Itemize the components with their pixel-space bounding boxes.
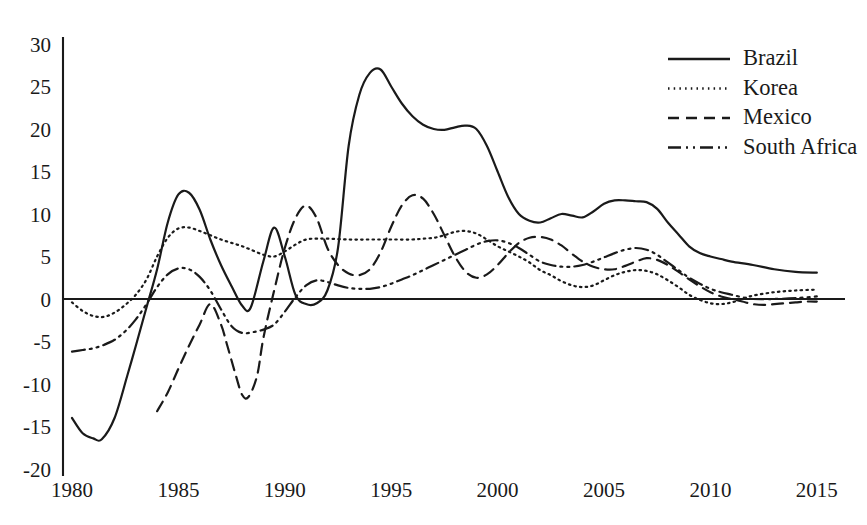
x-axis-tick-label: 1985 bbox=[157, 478, 199, 502]
legend-label-mexico: Mexico bbox=[743, 104, 812, 129]
y-axis-tick-label: 15 bbox=[30, 160, 51, 184]
x-axis-ticks: 19801985199019952000200520102015 bbox=[51, 478, 838, 502]
x-axis-tick-label: 2000 bbox=[477, 478, 519, 502]
y-axis-tick-label: 0 bbox=[41, 288, 52, 312]
legend-label-south-africa: South Africa bbox=[743, 134, 857, 159]
legend-label-korea: Korea bbox=[743, 75, 798, 100]
y-axis-tick-label: 20 bbox=[30, 118, 51, 142]
y-axis-ticks: 302520151050-5-10-15-20 bbox=[23, 33, 51, 482]
series-line-south-africa bbox=[72, 240, 817, 351]
x-axis-tick-label: 1980 bbox=[51, 478, 93, 502]
data-series-group bbox=[72, 68, 817, 440]
y-axis-tick-label: 25 bbox=[30, 75, 51, 99]
x-axis-tick-label: 2010 bbox=[689, 478, 731, 502]
y-axis-tick-label: 10 bbox=[30, 203, 51, 227]
series-line-korea bbox=[72, 227, 817, 317]
chart-legend: BrazilKoreaMexicoSouth Africa bbox=[668, 45, 857, 159]
x-axis-tick-label: 1995 bbox=[370, 478, 412, 502]
y-axis: 302520151050-5-10-15-20 bbox=[23, 33, 63, 482]
chart-container: 302520151050-5-10-15-20 1980198519901995… bbox=[0, 0, 867, 525]
y-axis-tick-label: -10 bbox=[23, 373, 51, 397]
series-line-brazil bbox=[72, 68, 817, 440]
x-axis-tick-label: 1990 bbox=[264, 478, 306, 502]
line-chart: 302520151050-5-10-15-20 1980198519901995… bbox=[0, 0, 867, 525]
y-axis-tick-label: -15 bbox=[23, 415, 51, 439]
x-axis-tick-label: 2005 bbox=[583, 478, 625, 502]
y-axis-tick-label: -5 bbox=[34, 330, 52, 354]
y-axis-tick-label: 5 bbox=[41, 245, 52, 269]
y-axis-tick-label: 30 bbox=[30, 33, 51, 57]
legend-label-brazil: Brazil bbox=[743, 45, 798, 70]
x-axis-tick-label: 2015 bbox=[796, 478, 838, 502]
x-axis: 19801985199019952000200520102015 bbox=[51, 299, 845, 502]
y-axis-tick-label: -20 bbox=[23, 458, 51, 482]
